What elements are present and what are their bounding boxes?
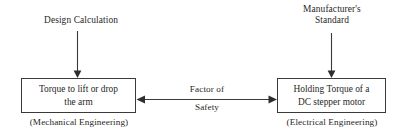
block-label-electrical: Holding Torque of a DC stepper motor <box>294 83 370 107</box>
arrow-design-calculation-to-mechanical <box>74 31 82 78</box>
source-label-manufacturers-standard: Manufacturer's Standard <box>288 4 376 26</box>
block-label-mechanical: Torque to lift or drop the arm <box>39 83 118 107</box>
diagram-canvas: Design Calculation Manufacturer's Standa… <box>0 0 406 135</box>
block-torque-to-lift-or-drop-the-arm[interactable]: Torque to lift or drop the arm <box>21 78 136 113</box>
source-label-design-calculation: Design Calculation <box>16 15 146 26</box>
block-caption-electrical-engineering: (Electrical Engineering) <box>272 117 392 128</box>
relation-label-factor-of: Factor of <box>167 84 247 95</box>
arrow-manufacturers-standard-to-electrical <box>328 33 336 78</box>
relation-label-safety: Safety <box>167 102 247 113</box>
block-holding-torque-dc-stepper-motor[interactable]: Holding Torque of a DC stepper motor <box>277 78 386 113</box>
block-caption-mechanical-engineering: (Mechanical Engineering) <box>11 117 147 128</box>
